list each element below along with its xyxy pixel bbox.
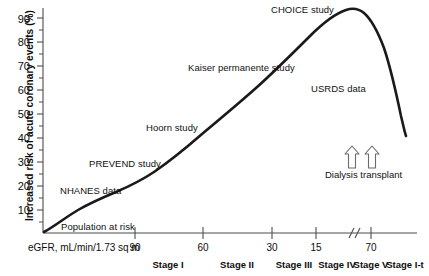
x-tick-label-70: 70 bbox=[363, 242, 379, 253]
stage-label-2: Stage II bbox=[209, 259, 265, 270]
annotation-usrds-data: USRDS data bbox=[311, 83, 366, 94]
risk-curve bbox=[44, 9, 406, 232]
annotation-nhanes-data: NHANES data bbox=[60, 185, 121, 196]
annotation-choice-study: CHOICE study bbox=[271, 4, 334, 15]
annotation-prevend-study: PREVEND study bbox=[89, 158, 161, 169]
x-tick-label-15: 15 bbox=[308, 242, 324, 253]
annotation-kaiser-permanente-study: Kaiser permanente study bbox=[188, 62, 295, 73]
y-minor-ticks bbox=[39, 30, 43, 222]
annotation-dialysis-transplant: Dialysis transplant bbox=[325, 169, 402, 180]
dialysis-arrow-icon bbox=[345, 146, 359, 168]
x-tick-label-90: 90 bbox=[127, 242, 143, 253]
x-tick-label-30: 30 bbox=[264, 242, 280, 253]
y-major-ticks bbox=[37, 18, 43, 210]
annotation-hoorn-study: Hoorn study bbox=[146, 122, 198, 133]
x-axis-title: eGFR, mL/min/1.73 sq m bbox=[28, 242, 140, 253]
annotation-population-at-risk: Population at risk bbox=[61, 221, 135, 232]
stage-label-1t: Stage I-t bbox=[377, 259, 429, 270]
x-tick-label-60: 60 bbox=[195, 242, 211, 253]
transplant-arrow-icon bbox=[365, 146, 379, 168]
stage-label-1: Stage I bbox=[140, 259, 196, 270]
